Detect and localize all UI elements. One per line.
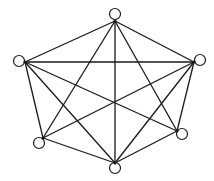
node-top	[110, 9, 121, 20]
node-anchor-bottom-right	[175, 129, 178, 132]
edge-left-bottom-right	[25, 62, 177, 131]
node-left	[14, 56, 25, 67]
node-right	[195, 55, 206, 66]
graph-edges	[25, 21, 194, 163]
node-anchor-bottom	[113, 161, 116, 164]
node-anchor-right	[192, 60, 195, 63]
node-anchor-left	[23, 60, 26, 63]
edge-left-bottom-left	[25, 62, 43, 138]
graph-nodes	[14, 9, 206, 174]
edge-top-left	[25, 21, 115, 62]
complete-graph-diagram	[0, 0, 214, 181]
edge-bottom-right-bottom	[115, 131, 177, 163]
node-anchor-top	[113, 19, 116, 22]
node-anchor-bottom-left	[41, 136, 44, 139]
